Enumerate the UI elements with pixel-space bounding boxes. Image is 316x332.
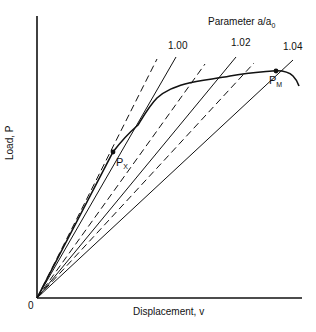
chart: Parameter a/a0 1.00 1.02 1.04 PX PM 0 Di… — [0, 0, 316, 332]
load-curve — [37, 71, 299, 298]
label-1-02: 1.02 — [231, 37, 250, 48]
point-px — [111, 150, 116, 155]
x-axis-label: Displacement, v — [133, 306, 204, 317]
legend-title: Parameter a/a0 — [208, 16, 275, 29]
point-pm — [274, 69, 279, 74]
label-1-00: 1.00 — [168, 40, 187, 51]
line-1-00 — [37, 57, 176, 298]
label-pm: PM — [269, 74, 282, 88]
y-axis-label: Load, P — [4, 126, 15, 160]
line-1-02 — [37, 57, 236, 298]
dashed-line-1-04 — [37, 63, 254, 298]
label-px: PX — [116, 156, 128, 170]
line-1-04 — [37, 60, 293, 298]
label-1-04: 1.04 — [283, 41, 302, 52]
chart-plot — [0, 0, 316, 332]
dashed-line-1-02 — [37, 64, 205, 298]
origin-label: 0 — [28, 300, 34, 311]
